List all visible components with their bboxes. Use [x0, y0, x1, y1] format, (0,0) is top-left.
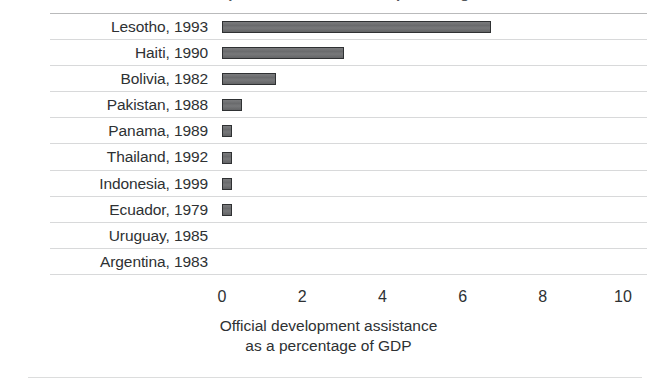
x-axis-tick-labels: 0246810 — [0, 288, 657, 312]
x-tick-label: 8 — [538, 288, 547, 306]
category-label: Uruguay, 1985 — [0, 223, 208, 249]
bar — [222, 204, 232, 216]
category-label: Indonesia, 1999 — [0, 171, 208, 197]
chart-row: Argentina, 1983 — [0, 249, 657, 275]
category-label: Argentina, 1983 — [0, 249, 208, 275]
plot-area: Lesotho, 1993Haiti, 1990Bolivia, 1982Pak… — [0, 14, 657, 286]
cropped-title-fragment: Official development assistance as a per… — [0, 0, 657, 11]
category-label: Ecuador, 1979 — [0, 197, 208, 223]
category-label: Bolivia, 1982 — [0, 66, 208, 92]
bar — [222, 178, 232, 190]
x-tick-label: 2 — [298, 288, 307, 306]
chart-row: Thailand, 1992 — [0, 144, 657, 170]
x-axis-title: Official development assistance as a per… — [0, 316, 657, 356]
category-label: Pakistan, 1988 — [0, 92, 208, 118]
chart-row: Ecuador, 1979 — [0, 197, 657, 223]
chart-figure: Official development assistance as a per… — [0, 0, 657, 389]
cropped-title-text: Official development assistance as a per… — [123, 0, 535, 1]
x-tick-label: 6 — [458, 288, 467, 306]
x-tick-label: 10 — [614, 288, 632, 306]
x-tick-label: 0 — [218, 288, 227, 306]
chart-row: Pakistan, 1988 — [0, 92, 657, 118]
bar — [222, 21, 491, 33]
chart-row: Uruguay, 1985 — [0, 223, 657, 249]
category-label: Lesotho, 1993 — [0, 14, 208, 40]
chart-row: Indonesia, 1999 — [0, 171, 657, 197]
x-axis-title-line-1: Official development assistance — [220, 317, 438, 334]
bar — [222, 73, 276, 85]
bar — [222, 99, 242, 111]
bar — [222, 125, 232, 137]
category-label: Haiti, 1990 — [0, 40, 208, 66]
chart-row: Panama, 1989 — [0, 118, 657, 144]
category-label: Thailand, 1992 — [0, 144, 208, 170]
chart-row: Bolivia, 1982 — [0, 66, 657, 92]
x-axis-title-line-2: as a percentage of GDP — [0, 336, 657, 356]
category-label: Panama, 1989 — [0, 118, 208, 144]
chart-row: Haiti, 1990 — [0, 40, 657, 66]
x-tick-label: 4 — [378, 288, 387, 306]
chart-row: Lesotho, 1993 — [0, 14, 657, 40]
bar — [222, 152, 232, 164]
figure-bottom-rule — [28, 377, 642, 378]
bar — [222, 47, 344, 59]
gridline — [50, 274, 647, 275]
